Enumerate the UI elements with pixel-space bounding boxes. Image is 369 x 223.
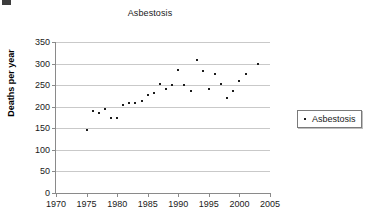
data-point	[177, 69, 179, 71]
y-tick-label: 50	[22, 166, 50, 176]
x-tick-label: 1980	[107, 199, 127, 209]
x-tick-mark	[209, 193, 210, 197]
y-tick-mark	[52, 42, 56, 43]
y-tick-mark	[52, 128, 56, 129]
data-point	[165, 88, 167, 90]
y-tick-label: 250	[22, 80, 50, 90]
data-point	[232, 90, 234, 92]
chart-container: Asbestosis Deaths per year 0501001502002…	[0, 0, 369, 223]
data-point	[104, 108, 106, 110]
data-point	[171, 84, 173, 86]
data-point	[245, 73, 247, 75]
data-point	[116, 117, 118, 119]
x-tick-mark	[148, 193, 149, 197]
data-point	[202, 70, 204, 72]
data-point	[134, 102, 136, 104]
data-point	[147, 94, 149, 96]
plot-area: 050100150200250300350 197019751980198519…	[56, 42, 270, 193]
data-point	[153, 92, 155, 94]
data-point	[141, 100, 143, 102]
x-tick-label: 1970	[46, 199, 66, 209]
y-tick-label: 350	[22, 37, 50, 47]
data-point	[208, 88, 210, 90]
data-point	[220, 83, 222, 85]
data-point	[190, 90, 192, 92]
data-point	[226, 97, 228, 99]
x-tick-mark	[178, 193, 179, 197]
data-point	[196, 59, 198, 61]
data-point	[128, 102, 130, 104]
y-tick-label: 0	[22, 188, 50, 198]
data-point	[183, 84, 185, 86]
legend-entry-label: Asbestosis	[312, 114, 356, 124]
gridline	[56, 85, 270, 86]
gridline	[56, 128, 270, 129]
x-tick-label: 2000	[229, 199, 249, 209]
scan-artifact	[2, 0, 11, 5]
y-tick-mark	[52, 107, 56, 108]
y-tick-label: 300	[22, 59, 50, 69]
data-point	[257, 63, 259, 65]
gridline	[56, 64, 270, 65]
y-tick-mark	[52, 171, 56, 172]
x-tick-label: 1985	[138, 199, 158, 209]
data-point	[122, 104, 124, 106]
y-axis-label: Deaths per year	[6, 28, 16, 138]
gridline	[56, 107, 270, 108]
gridline	[56, 171, 270, 172]
x-tick-mark	[239, 193, 240, 197]
chart-title: Asbestosis	[0, 8, 300, 18]
x-tick-label: 1975	[77, 199, 97, 209]
data-point	[159, 83, 161, 85]
x-tick-mark	[56, 193, 57, 197]
x-tick-label: 1995	[199, 199, 219, 209]
x-tick-label: 1990	[168, 199, 188, 209]
gridline	[56, 42, 270, 43]
y-tick-mark	[52, 150, 56, 151]
x-tick-label: 2005	[260, 199, 280, 209]
x-tick-mark	[270, 193, 271, 197]
y-tick-mark	[52, 64, 56, 65]
data-point	[110, 117, 112, 119]
chart-legend: Asbestosis	[297, 110, 362, 128]
data-point	[98, 112, 100, 114]
dot-marker-icon	[304, 118, 306, 120]
gridline	[56, 150, 270, 151]
y-tick-label: 150	[22, 123, 50, 133]
data-point	[238, 80, 240, 82]
y-tick-label: 100	[22, 145, 50, 155]
x-tick-mark	[117, 193, 118, 197]
data-point	[86, 129, 88, 131]
y-tick-mark	[52, 85, 56, 86]
data-point	[92, 110, 94, 112]
y-tick-label: 200	[22, 102, 50, 112]
x-tick-mark	[87, 193, 88, 197]
data-point	[214, 73, 216, 75]
